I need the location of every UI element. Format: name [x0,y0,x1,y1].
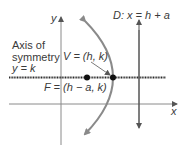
y-axis-label: y [50,12,58,24]
axis-of-symmetry-label-1: Axis of [12,39,46,51]
focus-point [84,75,90,81]
parabola-diagram: y x D: x = h + a Axis of symmetry y = k … [0,0,181,156]
directrix-label: D: x = h + a [113,9,170,21]
focus-label: F = (h − a, k) [44,81,107,93]
axis-of-symmetry-label-3: y = k [11,62,36,74]
vertex-point [110,75,116,81]
x-axis-label: x [170,105,177,117]
vertex-pointer-arrow [91,62,110,75]
vertex-label: V = (h, k) [63,50,108,62]
